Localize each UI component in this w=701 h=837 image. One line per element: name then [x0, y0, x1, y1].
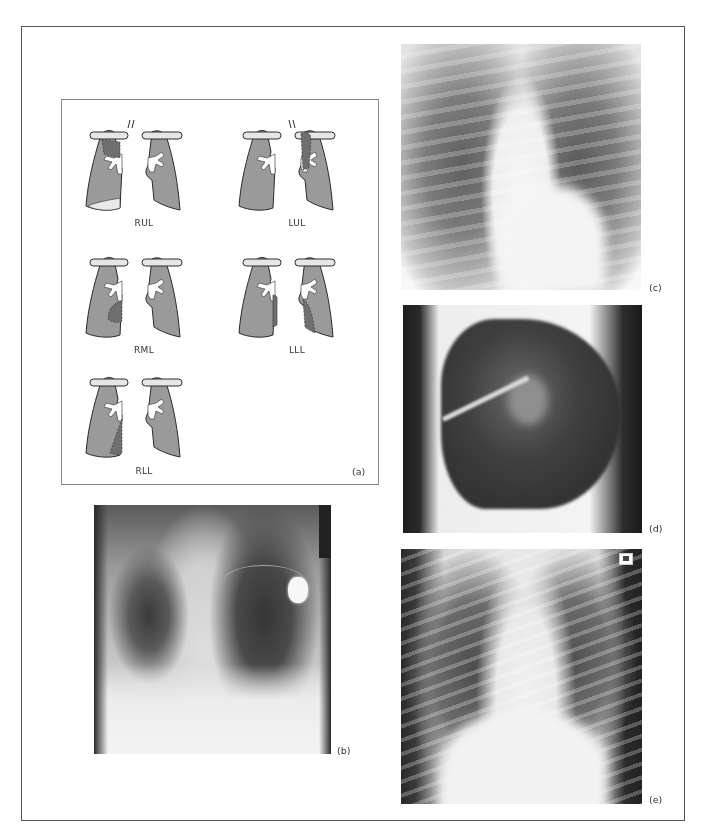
- panel-label-e: (e): [649, 794, 662, 805]
- lung-diagram-rml: [80, 245, 190, 341]
- panel-label-a: (a): [352, 466, 365, 477]
- film-marker: [619, 553, 633, 565]
- label-rll: RLL: [124, 466, 164, 476]
- pacemaker-device: [288, 577, 308, 603]
- lung-diagram-rll: [80, 365, 190, 461]
- radiograph-b: [94, 505, 331, 754]
- panel-label-d: (d): [649, 523, 662, 534]
- lung-diagram-lul: [233, 118, 343, 214]
- label-lul: LUL: [277, 218, 317, 228]
- radiograph-c: [401, 44, 641, 290]
- label-rml: RML: [124, 345, 164, 355]
- label-rul: RUL: [124, 218, 164, 228]
- radiograph-d: [403, 305, 642, 533]
- lung-diagram-lll: [233, 245, 343, 341]
- lung-diagram-rul: [80, 118, 190, 214]
- label-lll: LLL: [277, 345, 317, 355]
- panel-label-c: (c): [649, 282, 662, 293]
- radiograph-e: [401, 549, 642, 804]
- panel-label-b: (b): [337, 745, 350, 756]
